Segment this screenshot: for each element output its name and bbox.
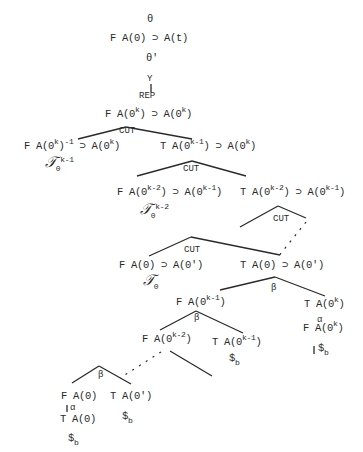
level4-left-formula: F A(0) ⊃ A(0') <box>119 259 203 271</box>
level4-right-formula: T A(0) ⊃ A(0') <box>240 259 324 271</box>
tree-edges <box>0 0 363 452</box>
edge <box>191 237 280 255</box>
level5-left-formula: F A(0k-1) <box>176 296 226 309</box>
edge <box>126 127 192 139</box>
tau-0: 𝒯0 <box>143 274 158 289</box>
edge <box>72 366 99 383</box>
cut-rule-label: CUT <box>273 214 289 224</box>
tau-k-1: 𝒯0k-1 <box>45 156 74 171</box>
level2-right-formula: T A(0k-1) ⊃ A(0k) <box>160 140 256 153</box>
cut-rule-label: CUT <box>184 245 200 255</box>
theta-label: θ <box>147 13 153 25</box>
level7-left-formula: F A(0) <box>61 390 97 402</box>
beta-rule-label: β <box>271 283 276 293</box>
level2-left-formula: F A(0k)-1 ⊃ A(0k) <box>24 140 120 153</box>
root-formula: F A(0) ⊃ A(t) <box>110 32 188 44</box>
edge <box>99 366 131 384</box>
closed-branch-mark: $b <box>229 352 240 365</box>
level7-right-formula: T A(0') <box>110 390 152 402</box>
cut-rule-label: CUT <box>119 126 135 136</box>
level5-right-formula: T A(0k) <box>304 298 345 311</box>
closed-branch-mark: $b <box>122 410 133 423</box>
dotted-edge <box>120 352 161 378</box>
closed-branch-mark: $b <box>318 342 329 355</box>
y-label: Y <box>147 74 152 84</box>
edge <box>275 277 325 296</box>
rep-label: REP <box>139 91 155 101</box>
cut-rule-label: CUT <box>183 164 199 174</box>
level3-left-formula: F A(0k-2) ⊃ A(0k-1) <box>117 186 222 199</box>
beta-rule-label: β <box>194 313 199 323</box>
edge <box>220 277 275 290</box>
beta-rule-label: β <box>98 370 103 380</box>
theta-prime-label: θ' <box>146 52 158 64</box>
edge <box>160 311 196 330</box>
dotted-edge <box>278 222 306 257</box>
closed-branch-mark: $b <box>68 432 79 445</box>
level3-right-formula: T A(0k-2) ⊃ A(0k-1) <box>240 186 345 199</box>
level7-left-child-formula: T A(0) <box>60 413 96 425</box>
edge <box>192 161 246 176</box>
edge <box>170 351 212 376</box>
level1-formula: F A(0k) ⊃ A(0k) <box>105 108 192 121</box>
tau-k-2: 𝒯0k-2 <box>140 203 169 218</box>
level5-right-child-formula: F A(0k) <box>303 322 344 335</box>
level6-left-formula: F A(0k-2) <box>142 333 192 346</box>
alpha-rule-label: α <box>70 403 75 413</box>
level6-right-formula: T A(0k-1) <box>212 336 262 349</box>
edge <box>196 311 243 333</box>
